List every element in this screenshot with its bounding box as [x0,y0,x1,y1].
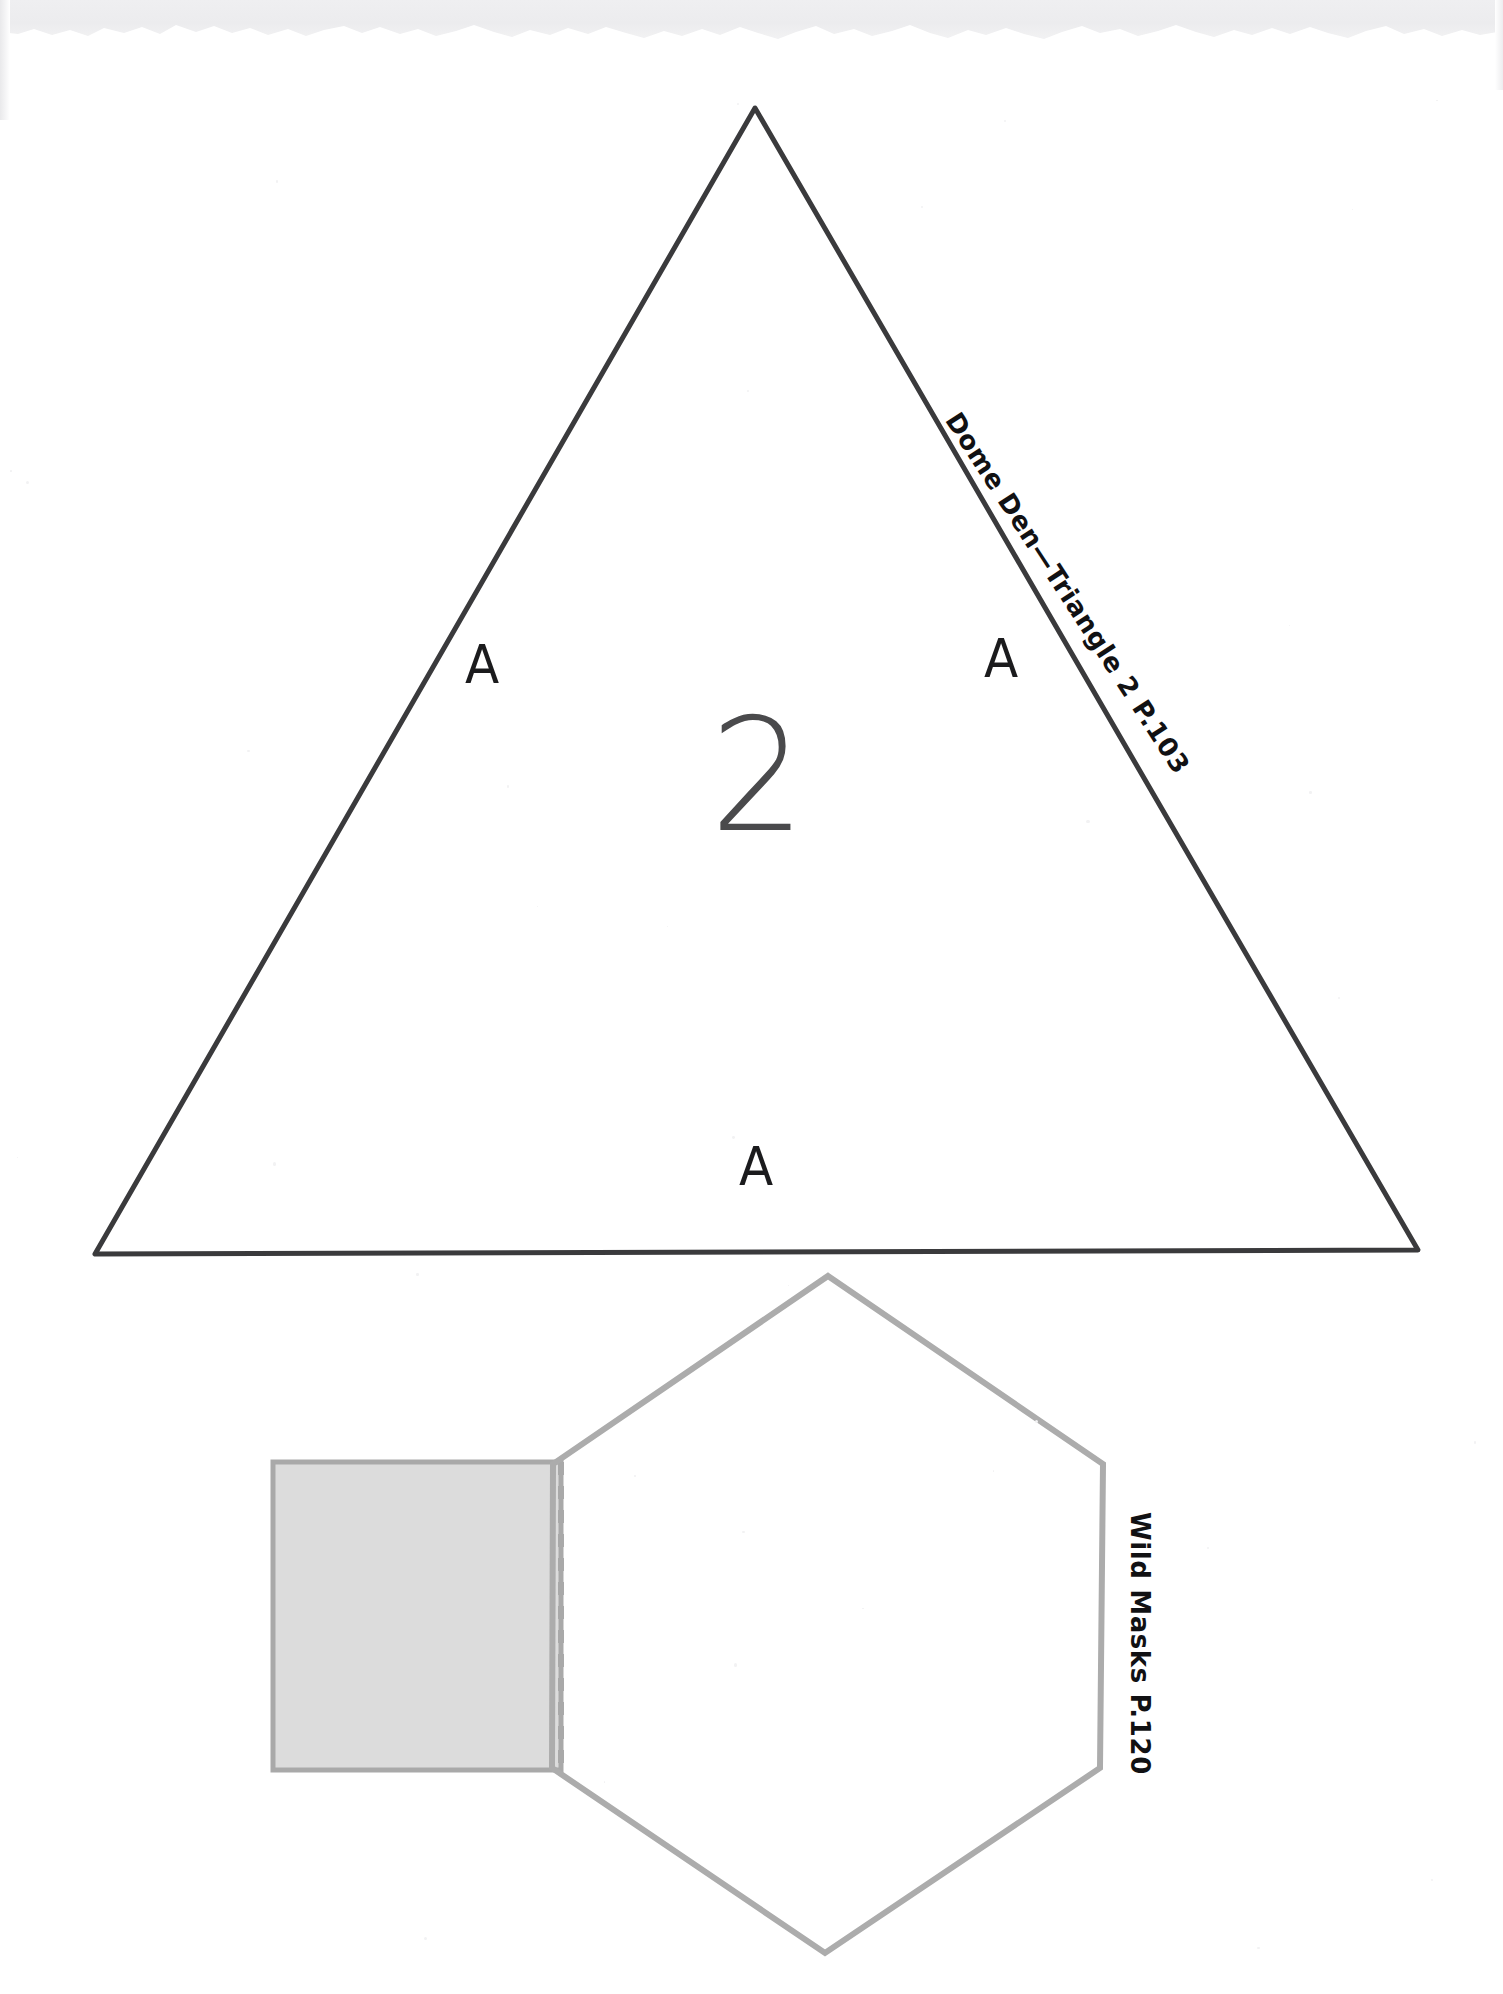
template-sheet-page: A A A 2 Dome Den—Triangle 2 P.103 Wild M… [0,0,1503,1994]
hexagon-edge-caption: Wild Masks P.120 [1125,1512,1155,1775]
triangle-template-shape [95,108,1418,1254]
template-artwork [0,0,1503,1994]
hexagon-template-shape [552,1276,1103,1953]
triangle-side-label-right: A [984,628,1018,691]
tab-flap-shape [273,1462,561,1770]
triangle-side-label-left: A [465,634,499,697]
triangle-piece-number: 2 [710,696,805,854]
tab-flap-group [273,1462,561,1770]
triangle-side-label-bottom: A [739,1136,773,1199]
